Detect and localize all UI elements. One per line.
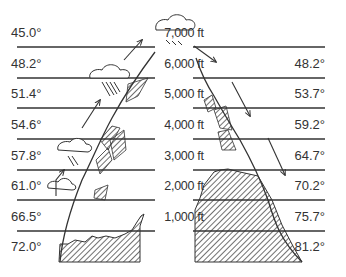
rain-cloud-icon	[90, 65, 130, 96]
small-cloud-icon	[58, 138, 92, 166]
altitude-label-1000: 1,000 ft	[154, 210, 214, 224]
leeward-temp-6000: 48.2°	[294, 57, 325, 71]
windward-temp-6000: 48.2°	[11, 57, 42, 71]
leeward-temp-sea-level: 81.2°	[294, 240, 325, 254]
windward-temp-2000: 61.0°	[11, 179, 42, 193]
windward-temp-4000: 54.6°	[11, 118, 42, 132]
windward-temp-sea-level: 72.0°	[11, 240, 42, 254]
windward-temp-5000: 51.4°	[11, 87, 42, 101]
altitude-label-7000: 7,000 ft	[154, 26, 214, 40]
leeward-temp-5000: 53.7°	[294, 87, 325, 101]
leeward-temp-4000: 59.2°	[294, 118, 325, 132]
leeward-temp-2000: 70.2°	[294, 179, 325, 193]
windward-foothill-terrain	[59, 214, 144, 262]
windward-temp-3000: 57.8°	[11, 149, 42, 163]
orographic-diagram	[0, 0, 346, 277]
altitude-label-5000: 5,000 ft	[154, 87, 214, 101]
altitude-lines	[17, 47, 325, 231]
windward-temp-7000: 45.0°	[11, 26, 42, 40]
altitude-label-3000: 3,000 ft	[154, 149, 214, 163]
leeward-temp-3000: 64.7°	[294, 149, 325, 163]
leeward-temp-1000: 75.7°	[294, 210, 325, 224]
altitude-label-2000: 2,000 ft	[154, 179, 214, 193]
low-cloud-icon	[48, 178, 76, 190]
altitude-label-4000: 4,000 ft	[154, 118, 214, 132]
windward-temp-1000: 66.5°	[11, 210, 42, 224]
altitude-label-6000: 6,000 ft	[154, 57, 214, 71]
